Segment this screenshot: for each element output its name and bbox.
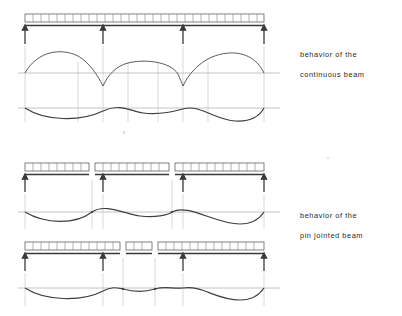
label-continuous-line1: behavior of the — [300, 50, 365, 59]
beam-behavior-diagram — [0, 0, 402, 316]
uniform-load-band-continuous — [25, 14, 264, 22]
deflected-shape-pin-b — [25, 288, 264, 300]
panel-pin-jointed-beam-drop-in-span — [18, 242, 280, 306]
support-arrows-continuous — [22, 25, 266, 44]
deflected-shape-continuous — [25, 108, 264, 122]
support-arrows-pin-b — [22, 253, 266, 271]
support-gridlines-continuous — [25, 46, 264, 122]
label-pin-jointed-beam: behavior of the pin jointed beam — [300, 211, 363, 240]
uniform-load-band-pin-b — [25, 242, 264, 250]
bending-moment-diagram-continuous — [25, 52, 264, 86]
uniform-load-band-pin-a — [25, 163, 264, 171]
label-continuous-beam: behavior of the continuous beam — [300, 50, 365, 79]
deflected-shape-pin-a — [25, 209, 264, 224]
label-pin-line1: behavior of the — [300, 211, 363, 220]
stray-tick-mark — [124, 131, 329, 158]
label-pin-line2: pin jointed beam — [300, 231, 363, 240]
support-arrows-pin-a — [22, 174, 266, 192]
panel-pin-jointed-beam-two-hinges — [18, 163, 280, 229]
panel-continuous-beam — [18, 14, 280, 122]
label-continuous-line2: continuous beam — [300, 70, 365, 79]
